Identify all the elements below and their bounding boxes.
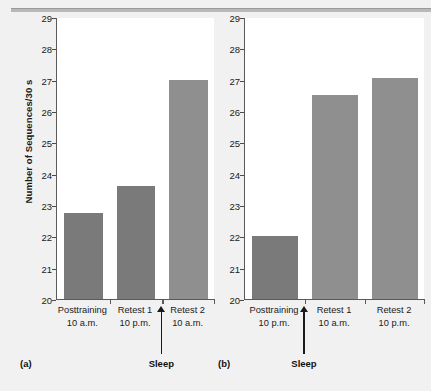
bar xyxy=(312,95,358,299)
chart-panel-b: 20212223242526272829 Posttraining10 p.m.… xyxy=(216,18,431,318)
y-tick-label: 23 xyxy=(218,201,240,212)
y-tick-label: 28 xyxy=(30,44,52,55)
panel-label-b: (b) xyxy=(218,358,230,369)
y-tick-label: 26 xyxy=(30,107,52,118)
y-tick-label: 22 xyxy=(218,232,240,243)
y-tick-label: 26 xyxy=(218,107,240,118)
y-tick-label: 29 xyxy=(30,13,52,24)
y-tick-label: 20 xyxy=(218,295,240,306)
category-name: Posttraining xyxy=(58,305,107,315)
sleep-arrow-shaft-icon xyxy=(161,312,163,354)
category-name: Retest 2 xyxy=(170,305,205,315)
panel-label-a: (a) xyxy=(20,358,32,369)
sleep-arrow-shaft-icon xyxy=(303,312,305,354)
y-tick-label: 24 xyxy=(218,169,240,180)
y-tick-label: 20 xyxy=(30,295,52,306)
y-tick-label: 27 xyxy=(218,75,240,86)
bar xyxy=(169,80,208,299)
plot-area-a xyxy=(56,18,214,300)
sleep-label: Sleep xyxy=(149,358,174,369)
y-tick-label: 24 xyxy=(30,169,52,180)
category-name: Posttraining xyxy=(249,305,298,315)
header-rule xyxy=(11,8,431,12)
bar-series-a xyxy=(57,18,214,299)
x-axis-category-labels-b: Posttraining10 p.m.Retest 110 a.m.Retest… xyxy=(244,304,424,338)
bar xyxy=(252,236,298,299)
figure: Number of Sequences/30 s 202122232425262… xyxy=(0,0,431,391)
category-name: Retest 1 xyxy=(317,305,352,315)
category-name: Retest 2 xyxy=(377,305,412,315)
bar-series-b xyxy=(245,18,424,299)
plot-area-b xyxy=(244,18,424,300)
y-tick-label: 28 xyxy=(218,44,240,55)
sleep-label: Sleep xyxy=(291,358,316,369)
category-time: 10 p.m. xyxy=(358,317,430,330)
x-axis-category-labels-a: Posttraining10 a.m.Retest 110 p.m.Retest… xyxy=(56,304,214,338)
y-tick-label: 23 xyxy=(30,201,52,212)
category-time: 10 a.m. xyxy=(155,317,220,330)
y-tick-label: 22 xyxy=(30,232,52,243)
y-tick-mark xyxy=(240,300,244,301)
y-axis-tick-labels-a: 20212223242526272829 xyxy=(30,18,52,300)
chart-panel-a: Number of Sequences/30 s 202122232425262… xyxy=(6,18,216,318)
y-tick-label: 27 xyxy=(30,75,52,86)
y-tick-label: 25 xyxy=(30,138,52,149)
y-tick-mark xyxy=(52,300,56,301)
bar xyxy=(372,78,418,299)
y-tick-label: 21 xyxy=(30,263,52,274)
bar xyxy=(117,186,156,299)
y-tick-label: 25 xyxy=(218,138,240,149)
y-axis-tick-labels-b: 20212223242526272829 xyxy=(218,18,240,300)
y-tick-label: 21 xyxy=(218,263,240,274)
category-name: Retest 1 xyxy=(118,305,153,315)
y-tick-label: 29 xyxy=(218,13,240,24)
bar xyxy=(64,213,103,299)
x-category-label: Retest 210 p.m. xyxy=(358,304,430,329)
